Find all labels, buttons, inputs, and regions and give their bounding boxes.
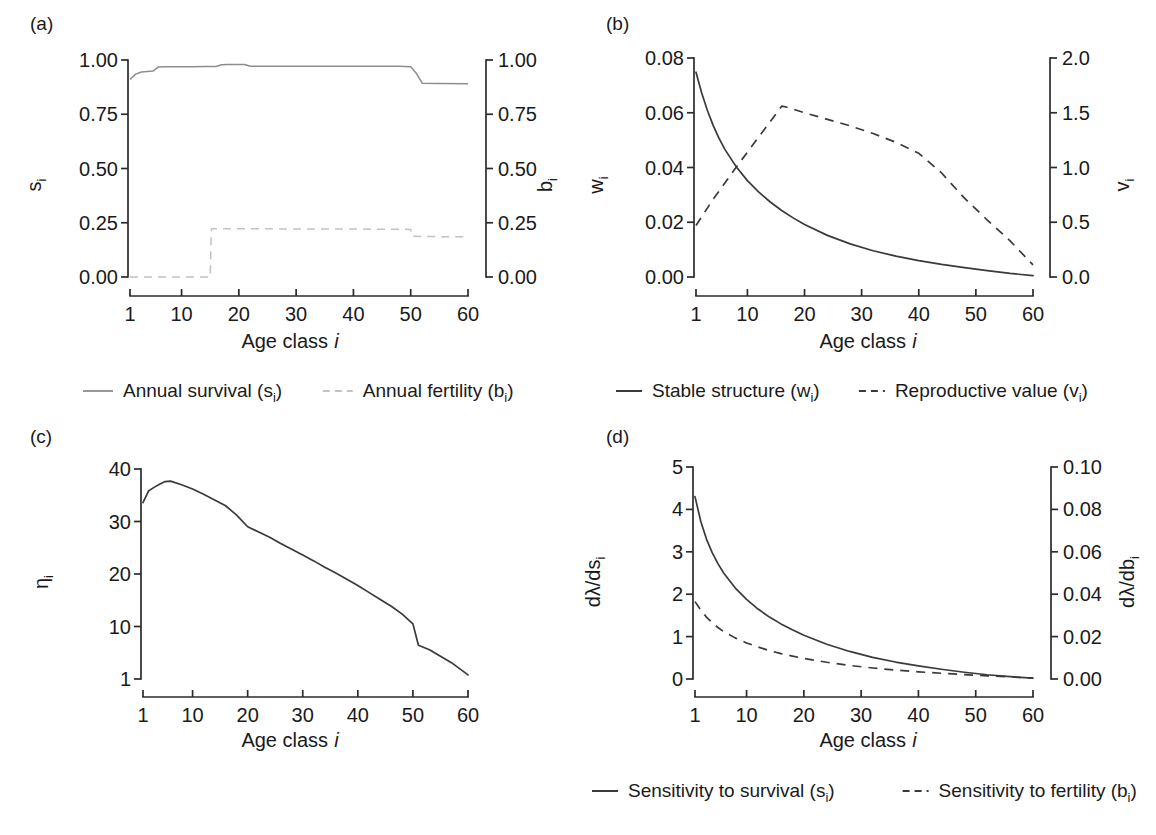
panel-a: (a) si bi 0.000.250.500.751.000.000.250.… [0, 0, 578, 417]
panel-d-series-1 [695, 602, 1033, 679]
panel-b-left-tick-label: 0.08 [645, 47, 684, 69]
svg-text:dλ/dsi: dλ/dsi [582, 557, 608, 608]
svg-text:bi: bi [534, 178, 560, 192]
panel-a-series-0 [130, 65, 468, 84]
panel-a-left-tick-label: 0.75 [79, 103, 118, 125]
panel-b-right-tick-label: 2.0 [1062, 47, 1090, 69]
panel-c: (c) ηi 1102030401102030405060 Age classi [0, 417, 578, 834]
panel-d-svg: (d) dλ/dsi dλ/dbi 0123450.000.020.040.06… [578, 417, 1156, 834]
panel-c-left-tick-label: 10 [109, 616, 131, 638]
legend-label-1: Annual fertility (bi) [363, 380, 514, 405]
panel-c-x-tick-label: 50 [402, 704, 424, 726]
panel-a-right-tick-label: 0.75 [498, 103, 537, 125]
svg-text:dλ/dbi: dλ/dbi [1116, 556, 1142, 608]
panel-a-plot-area: 0.000.250.500.751.000.000.250.500.751.00… [79, 49, 537, 325]
panel-b-left-tick-label: 0.06 [645, 102, 684, 124]
panel-a-x-tick-label: 40 [342, 303, 364, 325]
panel-a-right-tick-label: 0.25 [498, 212, 537, 234]
panel-b-x-tick-label: 1 [690, 303, 701, 325]
panel-d-right-tick-label: 0.10 [1063, 456, 1102, 478]
panel-a-left-tick-label: 1.00 [79, 49, 118, 71]
panel-a-x-tick-label: 50 [400, 303, 422, 325]
panel-d-left-tick-label: 3 [672, 541, 683, 563]
legend-label-0: Annual survival (si) [123, 380, 282, 405]
panel-a-series-1 [130, 229, 468, 277]
panel-b-series-1 [696, 106, 1033, 265]
panel-a-x-tick-label: 60 [457, 303, 479, 325]
panel-c-x-tick-label: 60 [457, 704, 479, 726]
panel-c-plot-area: 1102030401102030405060 [109, 458, 479, 726]
panel-a-legend: Annual survival (si)Annual fertility (bi… [83, 380, 514, 405]
panel-d-xlabel: Age classi [819, 729, 917, 751]
panel-b-right-tick-label: 1.0 [1062, 157, 1090, 179]
panel-b-letter: (b) [606, 13, 629, 34]
panel-a-svg: (a) si bi 0.000.250.500.751.000.000.250.… [0, 0, 578, 417]
svg-text:ηi: ηi [30, 575, 56, 589]
panel-d-x-tick-label: 1 [689, 704, 700, 726]
panel-a-left-tick-label: 0.00 [79, 266, 118, 288]
panel-c-x-tick-label: 20 [237, 704, 259, 726]
panel-c-left-axis-label: ηi [30, 575, 56, 589]
svg-text:si: si [23, 178, 49, 191]
legend-label-1: Sensitivity to fertility (bi) [939, 780, 1137, 805]
panel-a-left-tick-label: 0.25 [79, 212, 118, 234]
panel-a-right-tick-label: 0.00 [498, 266, 537, 288]
panel-d-left-tick-label: 5 [672, 456, 683, 478]
panel-b-x-tick-label: 50 [965, 303, 987, 325]
panel-b-x-tick-label: 20 [793, 303, 815, 325]
panel-c-left-tick-label: 20 [109, 563, 131, 585]
panel-b-left-tick-label: 0.00 [645, 266, 684, 288]
svg-text:vi: vi [1111, 178, 1137, 191]
svg-text:wi: wi [585, 176, 611, 194]
panel-d-left-tick-label: 0 [672, 668, 683, 690]
panel-a-letter: (a) [30, 13, 53, 34]
panel-d-letter: (d) [606, 426, 629, 447]
panel-d-x-tick-label: 20 [793, 704, 815, 726]
panel-c-left-tick-label: 1 [120, 668, 131, 690]
panel-b-right-tick-label: 0.5 [1062, 211, 1090, 233]
panel-a-xlabel: Age classi [241, 330, 339, 352]
panel-d-x-tick-label: 30 [850, 704, 872, 726]
panel-a-x-tick-label: 10 [170, 303, 192, 325]
panel-d-right-tick-label: 0.06 [1063, 541, 1102, 563]
panel-b-x-tick-label: 40 [908, 303, 930, 325]
panel-b-series-0 [696, 72, 1033, 275]
panel-d-left-axis-label: dλ/dsi [582, 557, 608, 608]
panel-c-left-tick-label: 30 [109, 511, 131, 533]
panel-a-right-axis-label: bi [534, 178, 560, 192]
panel-b-plot-area: 0.000.020.040.060.080.00.51.01.52.011020… [645, 47, 1090, 325]
panel-b-left-tick-label: 0.02 [645, 211, 684, 233]
panel-c-x-tick-label: 10 [181, 704, 203, 726]
panel-d-x-tick-label: 60 [1022, 704, 1044, 726]
panel-d-right-tick-label: 0.00 [1063, 668, 1102, 690]
panel-a-x-tick-label: 30 [285, 303, 307, 325]
panel-b-left-axis-label: wi [585, 176, 611, 194]
panel-d-right-tick-label: 0.04 [1063, 583, 1102, 605]
panel-b-right-tick-label: 0.0 [1062, 266, 1090, 288]
panel-c-xlabel: Age classi [241, 729, 339, 751]
panel-a-right-tick-label: 1.00 [498, 49, 537, 71]
panel-b-legend: Stable structure (wi)Reproductive value … [616, 380, 1088, 405]
panel-d-left-tick-label: 4 [672, 498, 683, 520]
panel-a-x-tick-label: 20 [228, 303, 250, 325]
panel-a-right-tick-label: 0.50 [498, 158, 537, 180]
panel-b-x-tick-label: 10 [736, 303, 758, 325]
panel-d-x-tick-label: 10 [735, 704, 757, 726]
panel-b-x-tick-label: 30 [851, 303, 873, 325]
panel-b-right-axis-label: vi [1111, 178, 1137, 191]
panel-c-letter: (c) [30, 426, 52, 447]
figure-root: (a) si bi 0.000.250.500.751.000.000.250.… [0, 0, 1156, 835]
panel-c-left-tick-label: 40 [109, 458, 131, 480]
panel-c-x-tick-label: 1 [137, 704, 148, 726]
legend-label-1: Reproductive value (vi) [895, 380, 1088, 405]
legend-label-0: Sensitivity to survival (si) [628, 780, 835, 805]
panel-b-svg: (b) wi vi 0.000.020.040.060.080.00.51.01… [578, 0, 1156, 417]
panel-a-left-tick-label: 0.50 [79, 158, 118, 180]
panel-b-xlabel: Age classi [819, 330, 917, 352]
panel-d-legend: Sensitivity to survival (si)Sensitivity … [592, 780, 1137, 805]
panel-b-left-tick-label: 0.04 [645, 157, 684, 179]
panel-b-x-tick-label: 60 [1022, 303, 1044, 325]
panel-d-plot-area: 0123450.000.020.040.060.080.101102030405… [672, 456, 1102, 726]
panel-d-x-tick-label: 40 [907, 704, 929, 726]
panel-c-x-tick-label: 40 [347, 704, 369, 726]
